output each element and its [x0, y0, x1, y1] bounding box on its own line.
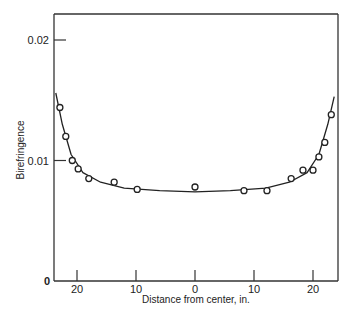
- data-point: [288, 176, 294, 182]
- x-axis-title: Distance from center, in.: [142, 294, 250, 305]
- x-axis-ticks: 201001020: [71, 270, 319, 295]
- data-point: [322, 139, 328, 145]
- data-point: [328, 112, 334, 118]
- y-axis-title: Birefringence: [15, 120, 26, 179]
- data-points: [57, 104, 334, 193]
- data-point: [241, 188, 247, 194]
- y-tick-label: 0: [44, 275, 50, 287]
- data-point: [192, 184, 198, 190]
- x-tick-label: 20: [307, 283, 319, 295]
- x-tick-label: 20: [71, 283, 83, 295]
- data-point: [69, 158, 75, 164]
- data-point: [57, 104, 63, 110]
- plot-frame: [54, 14, 338, 281]
- data-point: [300, 167, 306, 173]
- data-point: [316, 154, 322, 160]
- birefringence-chart: 00.010.02 201001020 Distance from center…: [0, 0, 355, 320]
- data-point: [310, 167, 316, 173]
- data-point: [75, 166, 81, 172]
- data-point: [86, 176, 92, 182]
- data-point: [134, 186, 140, 192]
- y-tick-label: 0.01: [28, 155, 49, 167]
- y-axis-ticks: 00.010.02: [28, 34, 66, 287]
- x-tick-label: 10: [130, 283, 142, 295]
- y-tick-label: 0.02: [28, 34, 49, 46]
- data-point: [264, 188, 270, 194]
- data-point: [111, 179, 117, 185]
- data-point: [63, 133, 69, 139]
